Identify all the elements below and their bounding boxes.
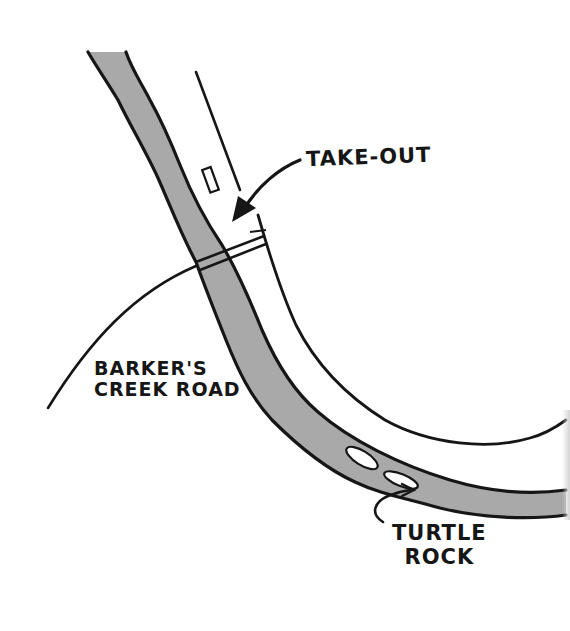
road-label: BARKER'S CREEK ROAD bbox=[94, 358, 241, 401]
take-out-arrow bbox=[242, 160, 300, 212]
rock-label-line1: TURTLE bbox=[392, 522, 487, 546]
rock-label-line2: ROCK bbox=[392, 546, 487, 570]
take-out-arrowhead bbox=[232, 196, 256, 222]
parking-marker bbox=[202, 167, 219, 193]
road-label-line1: BARKER'S bbox=[94, 358, 241, 379]
turtle-rock-label: TURTLE ROCK bbox=[392, 522, 487, 569]
take-out-label: TAKE-OUT bbox=[306, 144, 432, 172]
road-label-line2: CREEK ROAD bbox=[94, 379, 241, 400]
page-edge-shadow bbox=[562, 410, 570, 520]
river-bank-right bbox=[126, 52, 566, 492]
